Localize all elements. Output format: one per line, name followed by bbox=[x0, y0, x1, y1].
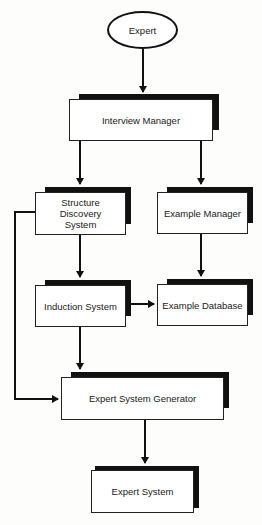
node-expert-system: Expert System bbox=[91, 470, 194, 513]
node-expert: Expert bbox=[107, 11, 178, 49]
node-expert-label: Expert bbox=[129, 25, 156, 36]
node-induction-system-label: Induction System bbox=[44, 301, 117, 312]
node-structure-discovery-label: Structure Discovery System bbox=[60, 197, 102, 230]
node-induction-system: Induction System bbox=[35, 285, 126, 327]
node-example-manager-label: Example Manager bbox=[164, 208, 241, 219]
node-example-database: Example Database bbox=[157, 284, 248, 326]
node-expert-system-label: Expert System bbox=[112, 486, 174, 497]
node-expert-system-generator-label: Expert System Generator bbox=[89, 393, 196, 404]
node-interview-manager-label: Interview Manager bbox=[102, 115, 180, 126]
node-example-database-label: Example Database bbox=[162, 300, 242, 311]
node-example-manager: Example Manager bbox=[157, 192, 248, 234]
node-structure-discovery: Structure Discovery System bbox=[35, 192, 126, 235]
connector-lines bbox=[0, 0, 262, 525]
node-interview-manager: Interview Manager bbox=[69, 99, 213, 141]
node-expert-system-generator: Expert System Generator bbox=[61, 377, 224, 420]
